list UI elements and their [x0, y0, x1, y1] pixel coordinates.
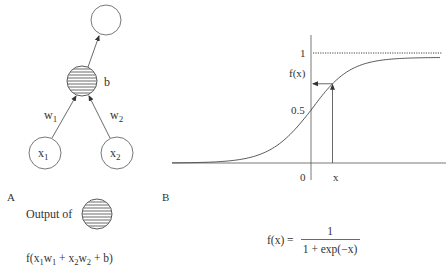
formula-denominator: 1 + exp(−x) [303, 243, 358, 256]
formula-numerator: 1 [327, 225, 333, 237]
hidden-node [60, 66, 104, 96]
bias-label: b [104, 75, 110, 89]
x-tick-label-zero: 0 [300, 171, 306, 183]
panel-a-network: b w1 w2 x1 x2 [29, 5, 133, 169]
y-tick-label-half: 0.5 [291, 104, 305, 116]
figure-canvas: b w1 w2 x1 x2 A Output of [0, 0, 448, 269]
formula-lhs: f(x) = [267, 234, 294, 247]
edge-hidden-to-output [88, 36, 99, 67]
weight-w2-label: w2 [110, 108, 123, 124]
caption-prefix: Output of [26, 207, 72, 221]
sigmoid-curve [172, 58, 440, 163]
weight-w1-label: w1 [44, 108, 57, 124]
panel-a-caption: Output of f(x1w1 + x2w2 + b) [26, 199, 119, 267]
sigmoid-formula: f(x) = 1 1 + exp(−x) [267, 225, 360, 256]
y-tick-label-one: 1 [300, 47, 306, 59]
panel-b-label: B [162, 191, 169, 203]
y-tick-label-fx: f(x) [289, 67, 306, 80]
panel-a-label: A [7, 191, 15, 203]
sigmoid-chart: 1 f(x) 0.5 0 x [172, 35, 446, 183]
caption-formula: f(x1w1 + x2w2 + b) [26, 252, 113, 267]
output-node [91, 5, 121, 35]
edge-x2-to-hidden [89, 96, 110, 138]
x-tick-label-x: x [333, 171, 339, 183]
